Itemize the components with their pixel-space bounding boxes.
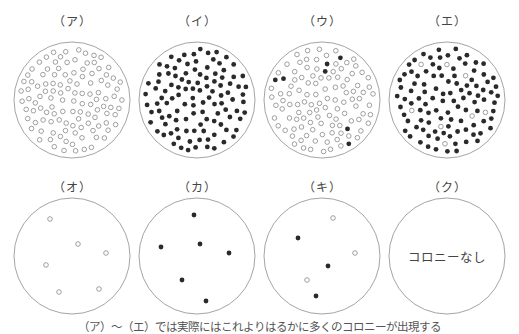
black-colony bbox=[235, 109, 240, 114]
dish-outline bbox=[139, 198, 255, 314]
white-colony bbox=[58, 55, 63, 60]
white-colony bbox=[301, 146, 306, 151]
white-colony bbox=[49, 119, 54, 124]
white-colony bbox=[95, 108, 100, 113]
black-colony bbox=[175, 109, 180, 114]
white-colony bbox=[342, 100, 347, 105]
black-colony bbox=[241, 92, 246, 97]
white-colony bbox=[345, 77, 350, 82]
white-colony bbox=[341, 84, 346, 89]
black-colony bbox=[176, 93, 181, 98]
white-colony bbox=[320, 132, 325, 137]
petri-dish-ki bbox=[264, 198, 380, 314]
black-colony bbox=[180, 77, 185, 82]
black-colony bbox=[421, 52, 426, 57]
black-colony bbox=[457, 56, 462, 61]
white-colony bbox=[306, 81, 311, 86]
black-colony bbox=[454, 149, 459, 154]
white-colony bbox=[313, 81, 318, 86]
black-colony bbox=[234, 128, 239, 133]
black-colony bbox=[206, 137, 211, 142]
black-colony bbox=[192, 128, 197, 133]
white-colony bbox=[57, 118, 62, 123]
white-colony bbox=[305, 278, 310, 283]
black-colony bbox=[210, 89, 215, 94]
white-colony bbox=[29, 126, 34, 131]
black-colony bbox=[163, 122, 168, 127]
white-colony bbox=[305, 48, 310, 53]
white-colony bbox=[49, 96, 54, 101]
white-colony bbox=[44, 55, 49, 60]
black-colony bbox=[206, 51, 211, 56]
white-colony bbox=[324, 53, 329, 58]
black-colony bbox=[175, 127, 180, 132]
white-colony bbox=[334, 117, 339, 122]
white-colony bbox=[313, 139, 318, 144]
white-colony bbox=[93, 115, 98, 120]
black-colony bbox=[406, 119, 411, 124]
white-colony bbox=[360, 70, 365, 75]
white-colony bbox=[352, 57, 357, 62]
black-colony bbox=[167, 114, 172, 119]
white-colony bbox=[299, 138, 304, 143]
black-colony bbox=[170, 96, 175, 101]
white-colony bbox=[278, 92, 283, 97]
white-colony bbox=[91, 128, 96, 133]
black-colony bbox=[191, 86, 196, 91]
black-colony bbox=[459, 88, 464, 93]
white-colony bbox=[274, 103, 279, 108]
white-colony bbox=[302, 100, 307, 105]
black-colony bbox=[236, 84, 241, 89]
black-colony bbox=[428, 55, 433, 60]
white-colony bbox=[51, 50, 56, 55]
black-colony bbox=[240, 74, 245, 79]
black-colony bbox=[212, 146, 217, 151]
white-colony bbox=[410, 108, 415, 113]
black-colony bbox=[441, 131, 446, 136]
white-colony bbox=[120, 98, 125, 103]
black-colony bbox=[417, 96, 422, 101]
black-colony bbox=[169, 131, 174, 136]
white-colony bbox=[333, 85, 338, 90]
black-colony bbox=[451, 99, 456, 104]
black-colony bbox=[469, 78, 474, 83]
black-colony bbox=[191, 103, 196, 108]
black-colony bbox=[231, 62, 236, 67]
white-colony bbox=[71, 109, 76, 114]
white-colony bbox=[62, 148, 67, 153]
white-colony bbox=[301, 116, 306, 121]
black-colony bbox=[412, 58, 417, 63]
black-colony bbox=[446, 124, 451, 129]
white-colony bbox=[27, 96, 32, 101]
white-colony bbox=[44, 263, 49, 268]
black-colony bbox=[397, 78, 402, 83]
white-colony bbox=[29, 80, 34, 85]
white-colony bbox=[347, 134, 352, 139]
white-colony bbox=[463, 73, 468, 78]
white-colony bbox=[297, 88, 302, 93]
black-colony bbox=[478, 131, 483, 136]
white-colony bbox=[53, 60, 58, 65]
black-colony bbox=[431, 62, 436, 67]
black-colony bbox=[149, 110, 154, 115]
black-colony bbox=[220, 75, 225, 80]
white-colony bbox=[57, 290, 62, 295]
white-colony bbox=[104, 73, 109, 78]
white-colony bbox=[295, 52, 300, 57]
black-colony bbox=[146, 81, 151, 86]
black-colony bbox=[455, 129, 460, 134]
white-colony bbox=[345, 60, 350, 65]
black-colony bbox=[418, 108, 423, 113]
black-colony bbox=[408, 134, 413, 139]
black-colony bbox=[212, 132, 217, 137]
white-colony bbox=[96, 90, 101, 95]
white-colony bbox=[37, 138, 42, 143]
black-colony bbox=[402, 112, 407, 117]
black-colony bbox=[201, 129, 206, 134]
black-colony bbox=[453, 141, 458, 146]
white-colony bbox=[38, 94, 43, 99]
white-colony bbox=[355, 135, 360, 140]
white-colony bbox=[314, 108, 319, 113]
black-colony bbox=[471, 132, 476, 137]
black-colony bbox=[426, 110, 431, 115]
